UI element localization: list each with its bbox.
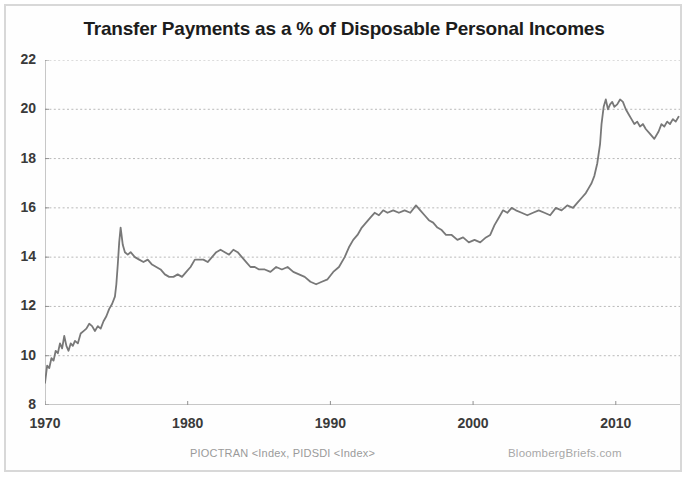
source-caption: PIOCTRAN <Index, PIDSDI <Index> <box>190 447 375 459</box>
y-tick-label: 12 <box>2 297 36 313</box>
x-tick-label: 1990 <box>298 415 362 431</box>
y-tick-label: 10 <box>2 347 36 363</box>
brand-watermark: BloombergBriefs.com <box>508 447 622 459</box>
plot-area <box>45 60 680 405</box>
data-series-line <box>45 99 679 382</box>
line-chart-svg <box>45 60 680 405</box>
page-title: Transfer Payments as a % of Disposable P… <box>0 18 688 40</box>
x-tick-label: 1970 <box>13 415 77 431</box>
y-tick-label: 18 <box>2 150 36 166</box>
x-tick-label: 2000 <box>441 415 505 431</box>
y-tick-label: 16 <box>2 199 36 215</box>
y-tick-label: 22 <box>2 51 36 67</box>
gridlines <box>45 60 680 356</box>
x-tick-label: 1980 <box>156 415 220 431</box>
chart-figure: Transfer Payments as a % of Disposable P… <box>0 0 688 477</box>
y-tick-label: 20 <box>2 100 36 116</box>
x-tick-label: 2010 <box>584 415 648 431</box>
y-tick-label: 8 <box>2 396 36 412</box>
x-axis-ticks <box>45 60 616 405</box>
y-tick-label: 14 <box>2 248 36 264</box>
